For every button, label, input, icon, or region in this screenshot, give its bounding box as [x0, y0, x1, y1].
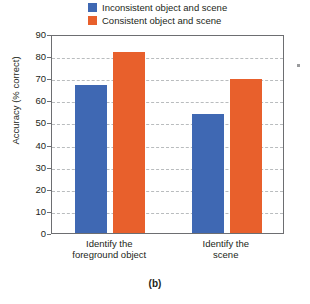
page-artifact-mark [297, 64, 300, 67]
y-tick-label: 50 [35, 119, 46, 129]
y-tick-label: 30 [35, 163, 46, 173]
bar-consistent-group-2 [230, 79, 262, 233]
bar-consistent-group-1 [113, 52, 145, 233]
legend-entry-consistent: Consistent object and scene [88, 15, 227, 26]
bar-inconsistent-group-1 [75, 85, 107, 233]
x-group-label-1: Identify theforeground object [51, 238, 168, 260]
y-tick-mark [47, 234, 51, 235]
y-tick-label: 60 [35, 97, 46, 107]
y-tick-label: 10 [35, 207, 46, 217]
bars-layer [52, 36, 283, 233]
y-tick-label: 70 [35, 74, 46, 84]
chart-legend: Inconsistent object and scene Consistent… [88, 2, 227, 26]
legend-entry-inconsistent: Inconsistent object and scene [88, 2, 227, 13]
x-group-label-2: Identify thescene [168, 238, 285, 260]
x-axis-labels: Identify theforeground objectIdentify th… [51, 238, 284, 268]
y-tick-label: 90 [35, 30, 46, 40]
figure-caption: (b) [0, 278, 310, 289]
figure-panel-b: Inconsistent object and scene Consistent… [0, 0, 310, 304]
y-axis-ticks: 0102030405060708090 [23, 35, 51, 234]
bar-inconsistent-group-2 [192, 114, 224, 233]
y-axis-title: Accuracy (% correct) [10, 41, 21, 161]
legend-swatch-inconsistent [88, 3, 97, 12]
y-tick-label: 40 [35, 141, 46, 151]
legend-label-consistent: Consistent object and scene [102, 16, 221, 26]
legend-swatch-consistent [88, 16, 97, 25]
plot-area [51, 35, 284, 234]
y-tick-label: 80 [35, 52, 46, 62]
y-tick-label: 20 [35, 185, 46, 195]
y-tick-label: 0 [41, 229, 46, 239]
legend-label-inconsistent: Inconsistent object and scene [102, 3, 227, 13]
